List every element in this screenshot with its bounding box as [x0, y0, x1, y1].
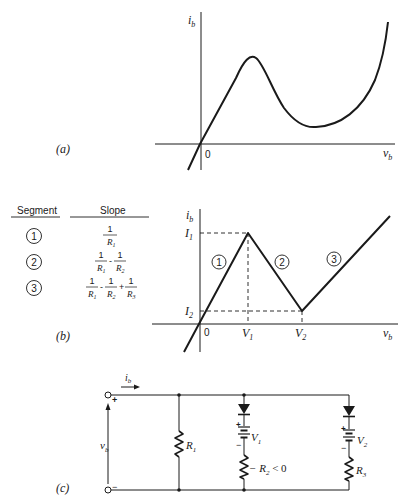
slope-3-formula: 1 R1 - 1 R2 + 1 R3 [86, 276, 137, 300]
segment-marker-3: 3 [327, 252, 341, 266]
svg-text:R1: R1 [106, 237, 116, 248]
r3-resistor-icon [345, 457, 353, 481]
slope-table: Segment Slope 1 1 R1 2 1 R1 - 1 [11, 205, 149, 343]
i1-label: I1 [184, 226, 193, 242]
panel-a-ni-curve [188, 22, 388, 170]
panel-a-caption: (a) [56, 142, 70, 156]
v2-label: V2 [295, 326, 306, 342]
table-header-segment: Segment [17, 205, 57, 216]
svg-text:1: 1 [98, 250, 103, 260]
plus-sign: + [112, 395, 117, 405]
table-row: 2 1 R1 - 1 R2 [27, 250, 127, 274]
table-header-slope: Slope [100, 205, 126, 216]
panel-b-y-label: ib [186, 208, 193, 224]
svg-text:-: - [100, 282, 103, 292]
v1-label: V1 [242, 326, 253, 342]
minus-sign: − [112, 482, 117, 492]
figure-canvas: ib 0 vb (a) Segment Slope 1 1 R1 2 1 [0, 0, 404, 504]
panel-c-caption: (c) [56, 481, 69, 495]
svg-text:R2: R2 [106, 289, 116, 300]
panel-b-origin-label: 0 [204, 327, 210, 338]
segment-marker-2: 2 [275, 255, 289, 269]
terminal-bottom [105, 487, 111, 493]
panel-b-caption: (b) [56, 329, 70, 343]
svg-text:R2: R2 [115, 263, 125, 274]
svg-text:3: 3 [31, 283, 37, 294]
terminal-top [105, 392, 111, 398]
panel-a-y-label: ib [188, 13, 195, 29]
svg-text:-: - [109, 256, 112, 266]
current-arrow-icon [121, 385, 140, 390]
svg-text:2: 2 [31, 257, 37, 268]
table-row: 1 1 R1 [27, 224, 118, 248]
svg-text:1: 1 [108, 276, 113, 286]
i2-label: I2 [184, 304, 193, 320]
r3-label: R3 [355, 464, 367, 479]
r2-label: − R2 < 0 [249, 462, 287, 477]
svg-text:2: 2 [279, 257, 285, 268]
svg-text:−: − [236, 440, 241, 450]
v1-source-label: V1 [251, 431, 261, 446]
v2-source-label: V2 [357, 434, 368, 449]
svg-text:1: 1 [31, 231, 37, 242]
svg-text:1: 1 [107, 224, 112, 234]
svg-text:R1: R1 [87, 289, 97, 300]
svg-text:3: 3 [331, 254, 337, 265]
panel-b-piecewise-curve [184, 216, 390, 352]
current-label: ib [125, 372, 132, 385]
diode-1-icon [238, 404, 250, 415]
table-row: 3 1 R1 - 1 R2 + 1 R3 [27, 276, 138, 300]
svg-text:1: 1 [117, 250, 122, 260]
svg-text:−: − [341, 443, 346, 453]
r1-resistor-icon [175, 431, 183, 457]
panel-c-circuit: ib + − vb R1 + − V1 − R2 [56, 372, 368, 495]
segment-marker-1: 1 [212, 255, 226, 269]
diode-2-icon [343, 406, 355, 417]
slope-1-formula: 1 R1 [103, 224, 117, 248]
panel-b-x-label: vb [383, 326, 392, 342]
voltage-arrow-icon [106, 403, 111, 484]
svg-text:+: + [119, 282, 124, 292]
slope-2-formula: 1 R1 - 1 R2 [95, 250, 126, 274]
panel-a: ib 0 vb (a) [56, 12, 395, 170]
r2-negative-resistor-icon [240, 455, 248, 479]
panel-a-origin-label: 0 [205, 149, 211, 160]
svg-text:1: 1 [128, 276, 133, 286]
r1-label: R1 [185, 439, 196, 454]
panel-b: 1 2 3 ib I1 I2 0 V1 V2 vb [152, 208, 398, 352]
svg-text:+: + [236, 420, 241, 429]
svg-text:R1: R1 [96, 263, 106, 274]
svg-text:+: + [341, 424, 346, 433]
panel-a-x-label: vb [383, 146, 392, 162]
svg-text:R3: R3 [126, 289, 136, 300]
svg-text:1: 1 [216, 257, 222, 268]
svg-text:1: 1 [89, 276, 94, 286]
